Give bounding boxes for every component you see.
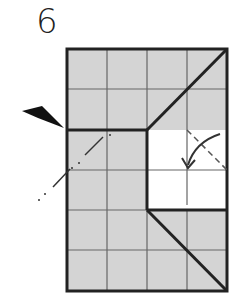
origami-diagram — [0, 0, 239, 301]
pointer-arrow-icon — [22, 106, 64, 128]
